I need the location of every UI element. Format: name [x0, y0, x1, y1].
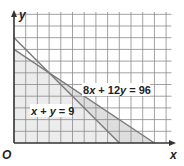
eq2-label: 8x + 12y = 96	[83, 84, 151, 96]
linear-programming-graph: y x O 8x + 12y = 96 x + y = 9	[0, 0, 184, 166]
eq2-part: = 96	[126, 84, 151, 96]
origin-label: O	[2, 148, 12, 162]
eq1-part: +	[37, 105, 50, 117]
eq2-part: + 12	[95, 84, 120, 96]
eq1-label: x + y = 9	[30, 105, 74, 117]
eq1-part: = 9	[56, 105, 75, 117]
x-axis-label: x	[169, 148, 178, 162]
x-axis-arrow-icon	[169, 140, 176, 146]
y-axis-arrow-icon	[11, 10, 17, 17]
y-axis-label: y	[18, 8, 27, 22]
